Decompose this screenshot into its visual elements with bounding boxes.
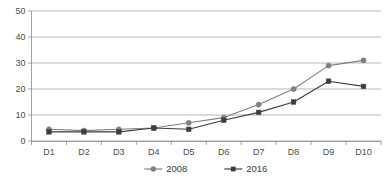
y-tick-label: 20: [15, 84, 25, 94]
chart-legend: 20082016: [144, 163, 267, 174]
data-point-2008-D10: [361, 58, 366, 63]
data-point-2016-D8: [291, 100, 296, 105]
line-chart: 01020304050 D1D2D3D4D5D6D7D8D9D10 200820…: [0, 0, 385, 178]
x-tick-label-d10: D10: [355, 147, 372, 157]
data-point-2008-D8: [291, 86, 296, 91]
series-2016: [47, 79, 366, 134]
data-point-2016-D5: [186, 127, 191, 132]
legend-square-marker-2016: [231, 167, 236, 172]
data-point-2016-D6: [221, 118, 226, 123]
y-tick-label: 10: [15, 110, 25, 120]
x-tick-label-d3: D3: [113, 147, 125, 157]
data-point-2008-D7: [256, 102, 261, 107]
chart-canvas: 01020304050 D1D2D3D4D5D6D7D8D9D10 200820…: [0, 0, 385, 178]
x-tick-label-d2: D2: [78, 147, 90, 157]
y-tick-label: 40: [15, 32, 25, 42]
x-tick-label-d8: D8: [288, 147, 300, 157]
gridlines-group: [32, 11, 382, 141]
data-point-2016-D1: [47, 130, 52, 135]
x-tick-label-d6: D6: [218, 147, 230, 157]
series-line-2008: [49, 60, 364, 130]
x-tick-label-d9: D9: [323, 147, 335, 157]
y-tick-label: 30: [15, 58, 25, 68]
data-point-2008-D9: [326, 63, 331, 68]
y-tick-labels-group: 01020304050: [15, 6, 25, 146]
legend-circle-marker-2008: [151, 166, 156, 171]
y-tick-marks-group: [28, 11, 32, 141]
legend-item-2016[interactable]: 2016: [224, 163, 267, 174]
x-tick-label-d1: D1: [43, 147, 55, 157]
x-tick-label-d5: D5: [183, 147, 195, 157]
data-point-2016-D10: [361, 84, 366, 89]
x-tick-label-d7: D7: [253, 147, 265, 157]
legend-item-2008[interactable]: 2008: [144, 163, 187, 174]
y-tick-label: 50: [15, 6, 25, 16]
data-point-2008-D5: [186, 120, 191, 125]
x-tick-label-d4: D4: [148, 147, 160, 157]
legend-label-2016: 2016: [246, 163, 267, 174]
data-series-group: [46, 58, 366, 134]
data-point-2016-D2: [82, 130, 87, 135]
data-point-2016-D4: [152, 126, 157, 131]
series-2008: [46, 58, 366, 133]
legend-label-2008: 2008: [166, 163, 187, 174]
x-tick-labels-group: D1D2D3D4D5D6D7D8D9D10: [43, 147, 372, 157]
data-point-2016-D7: [256, 110, 261, 115]
data-point-2016-D9: [326, 79, 331, 84]
y-tick-label: 0: [20, 136, 25, 146]
data-point-2016-D3: [117, 130, 122, 135]
